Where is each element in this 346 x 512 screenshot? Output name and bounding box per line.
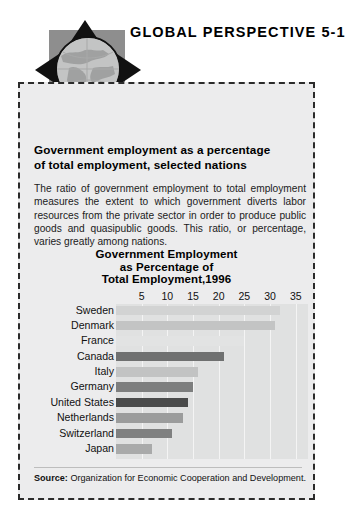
chart-bar — [116, 413, 183, 423]
chart-bar — [116, 398, 188, 408]
chart-plot: SwedenDenmarkFranceCanadaItalyGermanyUni… — [20, 304, 313, 464]
chart-row: Denmark — [20, 319, 313, 334]
chart-bar — [116, 429, 172, 439]
chart-category-label: France — [81, 334, 114, 347]
global-perspective-title: GLOBAL PERSPECTIVE 5-1 — [130, 24, 346, 40]
chart-category-label: Germany — [70, 380, 114, 393]
source-divider — [34, 467, 302, 468]
chart-bar-rows: SwedenDenmarkFranceCanadaItalyGermanyUni… — [20, 304, 313, 458]
headline-line-2: of total employment, selected nations — [34, 157, 302, 172]
chart-category-label: Netherlands — [57, 411, 114, 424]
chart-category-label: Italy — [95, 365, 114, 378]
x-tick-15: 15 — [187, 290, 199, 302]
chart-row: Germany — [20, 380, 313, 395]
bar-chart: Government Employment as Percentage of T… — [20, 248, 313, 472]
chart-bar — [116, 367, 198, 377]
chart-row: Netherlands — [20, 411, 313, 426]
panel-body-text: The ratio of government employment to to… — [34, 182, 306, 248]
source-note: Source: Organization for Economic Cooper… — [34, 472, 306, 484]
chart-title-line-2: as Percentage of — [20, 261, 313, 274]
chart-category-label: Denmark — [71, 319, 114, 332]
content-panel: Government employment as a percentage of… — [18, 82, 315, 500]
chart-row: Sweden — [20, 304, 313, 319]
chart-row: France — [20, 334, 313, 349]
chart-bar — [116, 444, 152, 454]
chart-x-axis: 5101520253035 — [116, 290, 306, 303]
x-tick-5: 5 — [139, 290, 145, 302]
chart-title: Government Employment as Percentage of T… — [20, 248, 313, 286]
chart-row: Switzerland — [20, 427, 313, 442]
chart-bar — [116, 352, 224, 362]
panel-headline: Government employment as a percentage of… — [34, 142, 302, 172]
chart-bar — [116, 336, 244, 346]
chart-bar — [116, 306, 280, 316]
chart-title-line-1: Government Employment — [20, 248, 313, 261]
chart-bar — [116, 321, 275, 331]
chart-category-label: Japan — [85, 442, 114, 455]
chart-category-label: Sweden — [76, 304, 114, 317]
chart-bar — [116, 382, 193, 392]
chart-title-line-3: Total Employment,1996 — [20, 273, 313, 286]
x-tick-35: 35 — [290, 290, 302, 302]
x-tick-20: 20 — [213, 290, 225, 302]
chart-plot-area: 5101520253035 SwedenDenmarkFranceCanadaI… — [20, 290, 313, 472]
x-tick-10: 10 — [162, 290, 174, 302]
x-tick-25: 25 — [239, 290, 251, 302]
x-tick-30: 30 — [264, 290, 276, 302]
headline-line-1: Government employment as a percentage — [34, 143, 270, 156]
chart-category-label: Canada — [77, 350, 114, 363]
source-text: Organization for Economic Cooperation an… — [68, 473, 306, 483]
chart-row: Canada — [20, 350, 313, 365]
chart-row: United States — [20, 396, 313, 411]
chart-row: Italy — [20, 365, 313, 380]
chart-category-label: Switzerland — [59, 427, 114, 440]
source-label: Source: — [34, 473, 68, 483]
chart-category-label: United States — [50, 396, 114, 409]
chart-row: Japan — [20, 442, 313, 457]
